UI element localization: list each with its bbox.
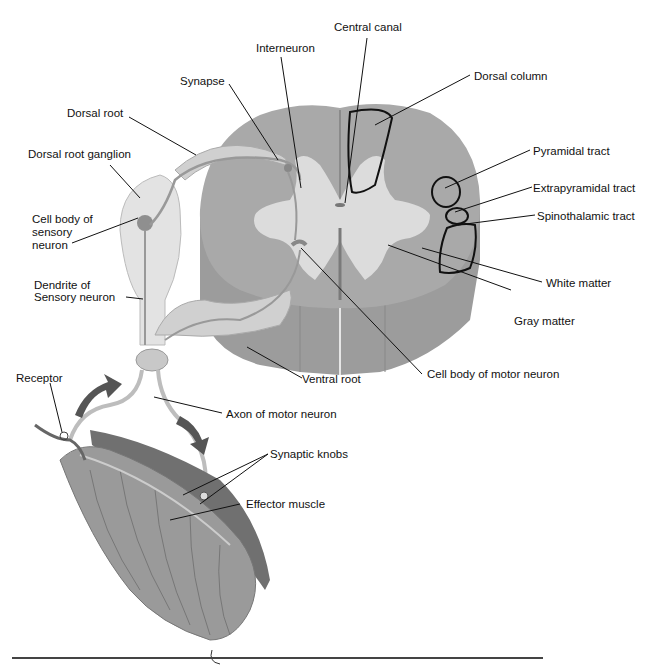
label-central-canal: Central canal <box>334 21 402 33</box>
label-axon-motor: Axon of motor neuron <box>226 408 337 420</box>
label-receptor: Receptor <box>16 372 63 384</box>
spinal-cord <box>200 104 480 375</box>
label-effector-muscle: Effector muscle <box>246 498 325 510</box>
label-cell-body-sensory-1: Cell body of <box>32 213 94 225</box>
label-dendrite-sensory-1: Dendrite of <box>34 279 91 291</box>
sensory-direction-arrow <box>75 374 122 418</box>
label-cell-body-motor: Cell body of motor neuron <box>427 368 559 380</box>
label-interneuron: Interneuron <box>256 42 315 54</box>
motor-direction-arrow <box>176 416 209 455</box>
label-dorsal-root-ganglion: Dorsal root ganglion <box>28 148 131 160</box>
label-gray-matter: Gray matter <box>514 315 575 327</box>
label-cell-body-sensory-3: neuron <box>32 239 68 251</box>
label-dorsal-root: Dorsal root <box>67 107 124 119</box>
label-pyramidal-tract: Pyramidal tract <box>533 145 610 157</box>
label-cell-body-sensory-2: sensory <box>32 226 73 238</box>
label-dendrite-sensory-2: Sensory neuron <box>34 291 115 303</box>
label-synapse: Synapse <box>180 75 225 87</box>
spinal-nerve-cut <box>136 349 168 371</box>
label-synaptic-knobs: Synaptic knobs <box>270 448 348 460</box>
label-extrapyramidal-tract: Extrapyramidal tract <box>533 182 636 194</box>
label-dorsal-column: Dorsal column <box>474 70 548 82</box>
central-canal <box>335 203 345 207</box>
reflex-arc-diagram: Central canal Interneuron Dorsal column … <box>0 0 657 667</box>
label-spinothalamic-tract: Spinothalamic tract <box>537 210 636 222</box>
label-ventral-root: Ventral root <box>302 373 362 385</box>
effector-muscle-illustration <box>35 425 270 664</box>
label-white-matter: White matter <box>546 277 611 289</box>
